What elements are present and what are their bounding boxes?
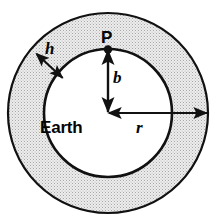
label-point-p: P — [101, 29, 112, 46]
label-outer-radius-r: r — [136, 119, 143, 136]
figure-container: P Earth h b r — [0, 0, 219, 219]
label-inner-radius-b: b — [113, 69, 122, 86]
label-earth: Earth — [40, 119, 82, 136]
label-shell-thickness-h: h — [45, 40, 54, 57]
